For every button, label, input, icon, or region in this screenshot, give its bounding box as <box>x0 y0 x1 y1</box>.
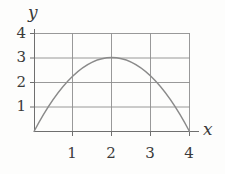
x-tick-label-3: 3 <box>142 146 158 161</box>
x-tick-label-1: 1 <box>64 146 80 161</box>
y-tick-label-2: 2 <box>10 75 26 90</box>
y-axis-label: y <box>28 4 38 21</box>
y-tick-label-1: 1 <box>10 99 26 114</box>
y-tick-label-4: 4 <box>10 26 26 41</box>
x-tick-label-4: 4 <box>181 146 197 161</box>
y-axis <box>30 29 35 132</box>
x-axis <box>34 132 199 137</box>
horizontal-gridlines <box>34 34 190 108</box>
x-axis-label: x <box>203 121 213 138</box>
parabola-figure: y x 4 3 2 1 1 2 3 4 <box>0 0 225 174</box>
x-tick-label-2: 2 <box>103 146 119 161</box>
y-tick-label-3: 3 <box>10 50 26 65</box>
